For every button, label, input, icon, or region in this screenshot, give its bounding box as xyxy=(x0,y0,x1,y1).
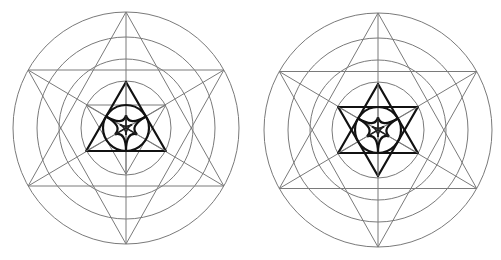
geometry-diagram xyxy=(0,0,501,260)
figure-right xyxy=(264,13,492,247)
diagram-canvas: Two sacred-geometry constructions side b… xyxy=(0,0,501,260)
figure-left xyxy=(13,12,239,244)
